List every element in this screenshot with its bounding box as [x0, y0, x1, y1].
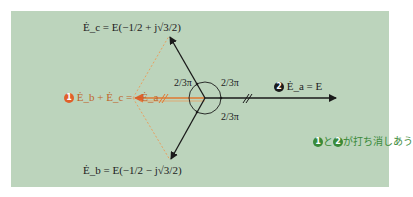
vector-ec [170, 37, 205, 98]
label-sum: 1 Ė_b + Ė_c = −Ė_a [64, 92, 158, 103]
badge-1: 1 [64, 93, 74, 103]
angle-label-upper-right: 2/3π [221, 78, 239, 88]
label-ec: Ė_c = E(−1/2 + j√3/2) [83, 22, 181, 33]
angle-label-upper-left: 2/3π [174, 78, 192, 88]
badge-2: 2 [274, 82, 284, 92]
label-ea: 2 Ė_a = E [274, 81, 322, 92]
angle-label-lower-right: 2/3π [221, 112, 239, 122]
vector-eb [171, 98, 205, 159]
label-eb: Ė_b = E(−1/2 − j√3/2) [83, 165, 182, 176]
note-badge-1: 1 [313, 137, 323, 147]
cancel-note: 1と2が打ち消しあう [313, 133, 413, 148]
note-badge-2: 2 [333, 137, 343, 147]
